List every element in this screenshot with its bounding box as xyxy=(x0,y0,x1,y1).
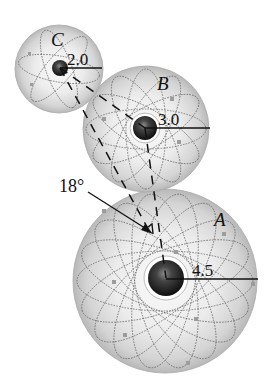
radius-value-c: 2.0 xyxy=(67,51,88,68)
sphere-label-c: C xyxy=(51,30,64,49)
spheres-figure xyxy=(0,0,270,386)
radius-value-b: 3.0 xyxy=(158,111,179,128)
diagram-canvas: C B A 2.0 3.0 4.5 18° xyxy=(0,0,270,386)
sphere-a xyxy=(72,189,258,373)
sphere-label-a: A xyxy=(214,210,226,229)
sphere-label-b: B xyxy=(157,74,169,93)
sphere-b xyxy=(83,66,210,192)
angle-label: 18° xyxy=(59,177,84,195)
radius-value-a: 4.5 xyxy=(192,262,213,279)
